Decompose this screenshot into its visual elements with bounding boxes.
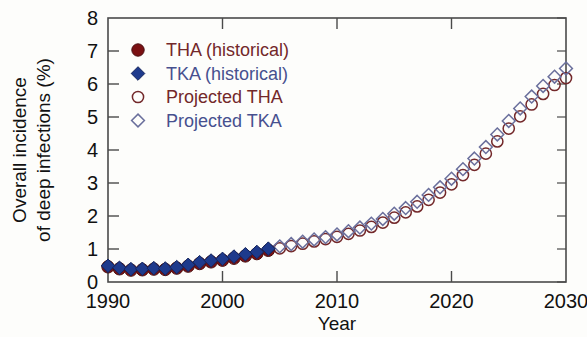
y-tick-label-5: 5 <box>87 106 98 128</box>
x-axis-title: Year <box>318 313 357 334</box>
legend-entry-1: TKA (historical) <box>131 64 288 84</box>
y-tick-label-4: 4 <box>87 139 98 161</box>
legend-label-0: THA (historical) <box>166 40 289 60</box>
data-point <box>515 111 526 122</box>
legend-marker-open-circle <box>132 91 143 102</box>
x-tick-label-2020: 2020 <box>429 290 474 312</box>
y-tick-label-6: 6 <box>87 73 98 95</box>
y-tick-label-7: 7 <box>87 40 98 62</box>
incidence-scatter-chart: 012345678 19902000201020202030 THA (hist… <box>0 0 587 337</box>
y-tick-label-8: 8 <box>87 7 98 29</box>
series-projected-tka <box>273 62 572 253</box>
legend-label-1: TKA (historical) <box>166 64 288 84</box>
x-tick-label-2030: 2030 <box>544 290 587 312</box>
y-tick-label-2: 2 <box>87 205 98 227</box>
y-axis-tick-labels: 012345678 <box>87 7 98 293</box>
y-tick-label-3: 3 <box>87 172 98 194</box>
series-projected-tha <box>274 72 571 253</box>
data-point <box>377 217 388 228</box>
y-axis-title-line2: of deep infections (%) <box>33 58 54 242</box>
data-point <box>526 99 537 110</box>
x-tick-label-2010: 2010 <box>315 290 360 312</box>
data-point <box>434 187 445 198</box>
figure-page: 012345678 19902000201020202030 THA (hist… <box>0 0 587 337</box>
legend-marker-filled-diamond <box>131 67 145 81</box>
legend-entry-2: Projected THA <box>132 87 282 107</box>
legend-label-2: Projected THA <box>166 87 283 107</box>
x-tick-label-2000: 2000 <box>200 290 245 312</box>
data-point <box>411 195 424 208</box>
x-tick-label-1990: 1990 <box>86 290 131 312</box>
data-point <box>389 212 400 223</box>
data-point <box>423 194 434 205</box>
data-point <box>503 123 514 134</box>
legend-label-3: Projected TKA <box>166 111 282 131</box>
data-point <box>549 79 560 90</box>
chart-legend: THA (historical)TKA (historical)Projecte… <box>131 40 289 131</box>
legend-marker-open-diamond <box>132 114 145 127</box>
y-tick-label-1: 1 <box>87 238 98 260</box>
legend-entry-0: THA (historical) <box>132 40 289 60</box>
legend-entry-3: Projected TKA <box>132 111 282 131</box>
data-point <box>412 201 423 212</box>
x-axis-tick-labels: 19902000201020202030 <box>86 290 587 312</box>
data-point <box>400 207 411 218</box>
legend-marker-filled-circle <box>132 44 144 56</box>
y-axis-title-line1: Overall incidence <box>9 77 30 223</box>
data-point <box>538 88 549 99</box>
